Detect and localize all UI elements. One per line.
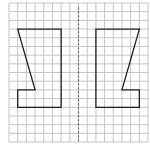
left-shape [18, 29, 61, 107]
right-shape-reflection [96, 29, 139, 107]
grid-diagram [0, 0, 150, 148]
